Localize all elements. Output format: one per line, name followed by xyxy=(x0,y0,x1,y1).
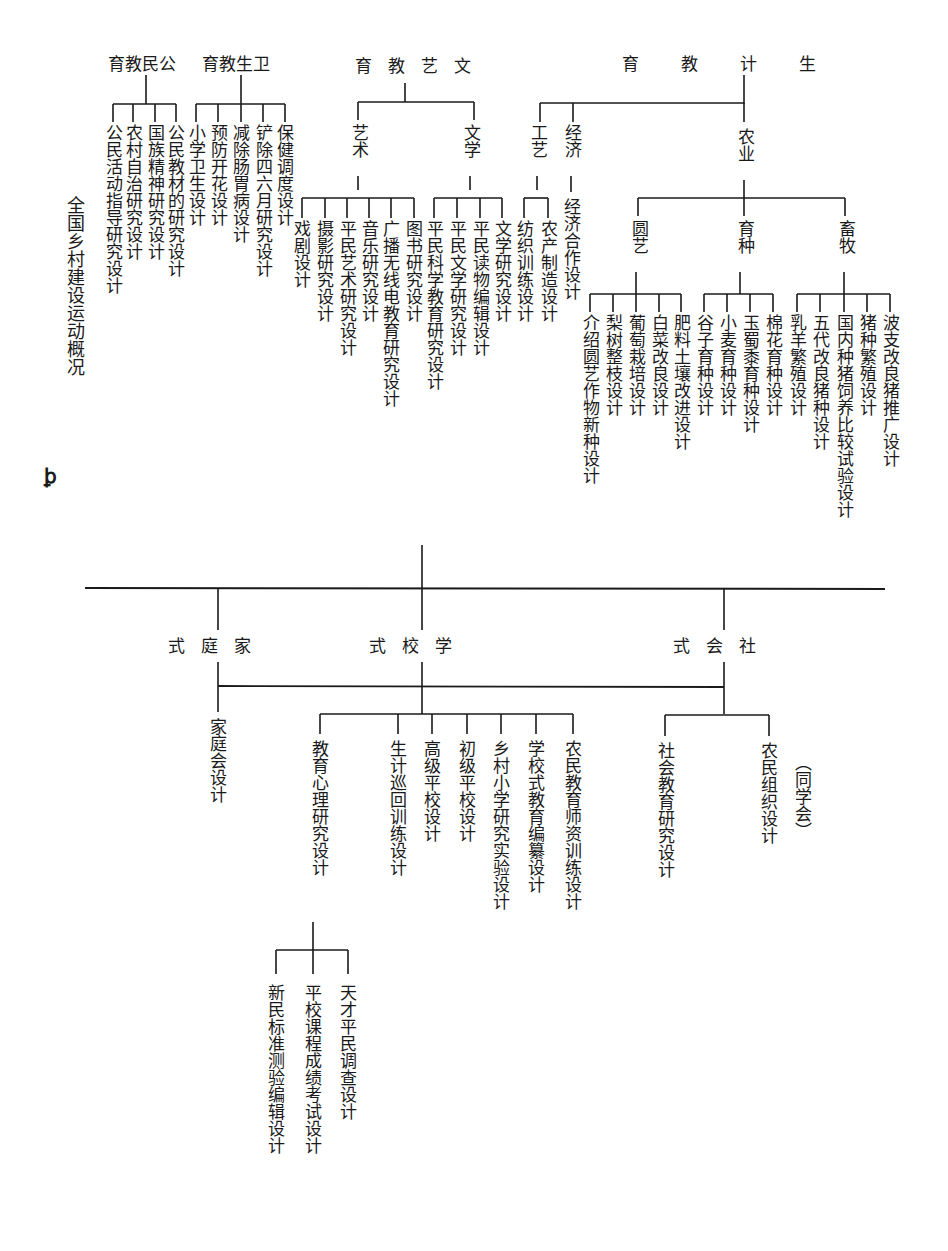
leaf-arts-4: 音乐研究设计 xyxy=(360,220,378,322)
leaf-school-3: 高级平校设计 xyxy=(422,740,440,842)
subgroup-craft: 工艺 xyxy=(528,124,548,158)
subgroup-literature: 文学 xyxy=(461,124,481,158)
group-header-livelihood: 育教计生 xyxy=(622,56,858,73)
leaf-breed-2: 小麦育种设计 xyxy=(718,314,736,416)
leaf-health-2: 预防开花设计 xyxy=(209,124,227,226)
leaf-health-3: 减除肠胃病设计 xyxy=(231,124,249,243)
leaf-hort-2: 梨树整枝设计 xyxy=(604,314,622,416)
leaf-arts-5: 广播无线电教育研究设计 xyxy=(381,220,399,407)
subgroup-agriculture: 农业 xyxy=(735,128,755,162)
group-header-society: 式会社 xyxy=(673,638,772,655)
leaf-civic-2: 农村自治研究设计 xyxy=(124,124,142,260)
leaf-school-5: 乡村小学研究实验设计 xyxy=(491,740,509,910)
leaf-lit-1: 平民科学教育研究设计 xyxy=(425,220,443,390)
group-header-civic: 育教民公 xyxy=(108,56,176,73)
leaf-lit-2: 平民文学研究设计 xyxy=(448,220,466,356)
leaf-craft-2: 农产制造设计 xyxy=(539,220,557,322)
leaf-lit-3: 平民读物编辑设计 xyxy=(471,220,489,356)
leaf-arts-3: 平民艺术研究设计 xyxy=(338,220,356,356)
leaf-health-1: 小学卫生设计 xyxy=(187,124,205,226)
leaf-health-4: 铲除四六月研究设计 xyxy=(254,124,272,277)
leaf-school-7: 农民教育师资训练设计 xyxy=(563,740,581,910)
leaf-live-2: 五代改良猪种设计 xyxy=(811,314,829,450)
leaf-civic-3: 国族精神研究设计 xyxy=(146,124,164,260)
leaf-civic-1: 公民活动指导研究设计 xyxy=(104,124,122,294)
leaf-hort-4: 白菜改良设计 xyxy=(650,314,668,416)
society-note: （同学会） xyxy=(793,754,811,839)
group-header-arts: 育教艺文 xyxy=(355,58,487,75)
group-header-family: 式庭家 xyxy=(168,638,267,655)
leaf-school-1: 教育心理研究设计 xyxy=(310,740,328,876)
subgroup-horticulture: 圆艺 xyxy=(629,220,649,254)
leaf-live-5: 波支改良猪推广设计 xyxy=(881,314,899,467)
subgroup-economy: 经济 xyxy=(562,124,582,158)
leaf-hort-5: 肥料土壤改进设计 xyxy=(672,314,690,450)
org-tree-diagram: 全国乡村建设运动概况 育教民公 育教生卫 育教艺文 育教计生 公民活动指导研究设… xyxy=(0,0,948,1251)
leaf-live-4: 猪种繁殖设计 xyxy=(858,314,876,416)
leaf-hort-1: 介绍圆艺作物新种设计 xyxy=(581,314,599,484)
leaf-family-1: 家庭会设计 xyxy=(208,718,226,803)
leaf-school-4: 初级平校设计 xyxy=(457,740,475,842)
leaf-society-1: 社会教育研究设计 xyxy=(656,742,674,878)
subgroup-livestock: 畜牧 xyxy=(836,220,856,254)
leaf-hort-3: 葡萄栽培设计 xyxy=(627,314,645,416)
leaf-economy-1: 经济合作设计 xyxy=(562,198,580,300)
leaf-arts-6: 图书研究设计 xyxy=(404,220,422,322)
margin-mark: ꝧ xyxy=(44,464,57,488)
side-title: 全国乡村建设运动概况 xyxy=(64,196,84,376)
leaf-breed-4: 棉花育种设计 xyxy=(764,314,782,416)
leaf-school-6: 学校式教育编纂设计 xyxy=(526,740,544,893)
group-header-school: 式校学 xyxy=(369,638,468,655)
leaf-arts-2: 摄影研究设计 xyxy=(315,220,333,322)
subgroup-breeding: 育种 xyxy=(735,220,755,254)
leaf-lit-4: 文学研究设计 xyxy=(493,220,511,322)
leaf-psych-3: 天才平民调查设计 xyxy=(338,984,356,1120)
leaf-psych-1: 新民标准测验编辑设计 xyxy=(266,984,284,1154)
leaf-live-3: 国内种猪饲养比较试验设计 xyxy=(835,314,853,518)
leaf-school-2: 生计巡回训练设计 xyxy=(388,740,406,876)
group-header-health: 育教生卫 xyxy=(202,56,270,73)
leaf-psych-2: 平校课程成绩考试设计 xyxy=(303,984,321,1154)
leaf-society-2: 农民组织设计 xyxy=(759,742,777,844)
leaf-live-1: 乳羊繁殖设计 xyxy=(788,314,806,416)
leaf-civic-4: 公民教材的研究设计 xyxy=(166,124,184,277)
leaf-arts-1: 戏剧设计 xyxy=(292,220,310,288)
subgroup-arts: 艺术 xyxy=(349,124,369,158)
leaf-breed-1: 谷子育种设计 xyxy=(695,314,713,416)
leaf-health-5: 保健调度设计 xyxy=(275,124,293,226)
leaf-breed-3: 玉蜀黍育种设计 xyxy=(741,314,759,433)
leaf-craft-1: 纺织训练设计 xyxy=(515,220,533,322)
